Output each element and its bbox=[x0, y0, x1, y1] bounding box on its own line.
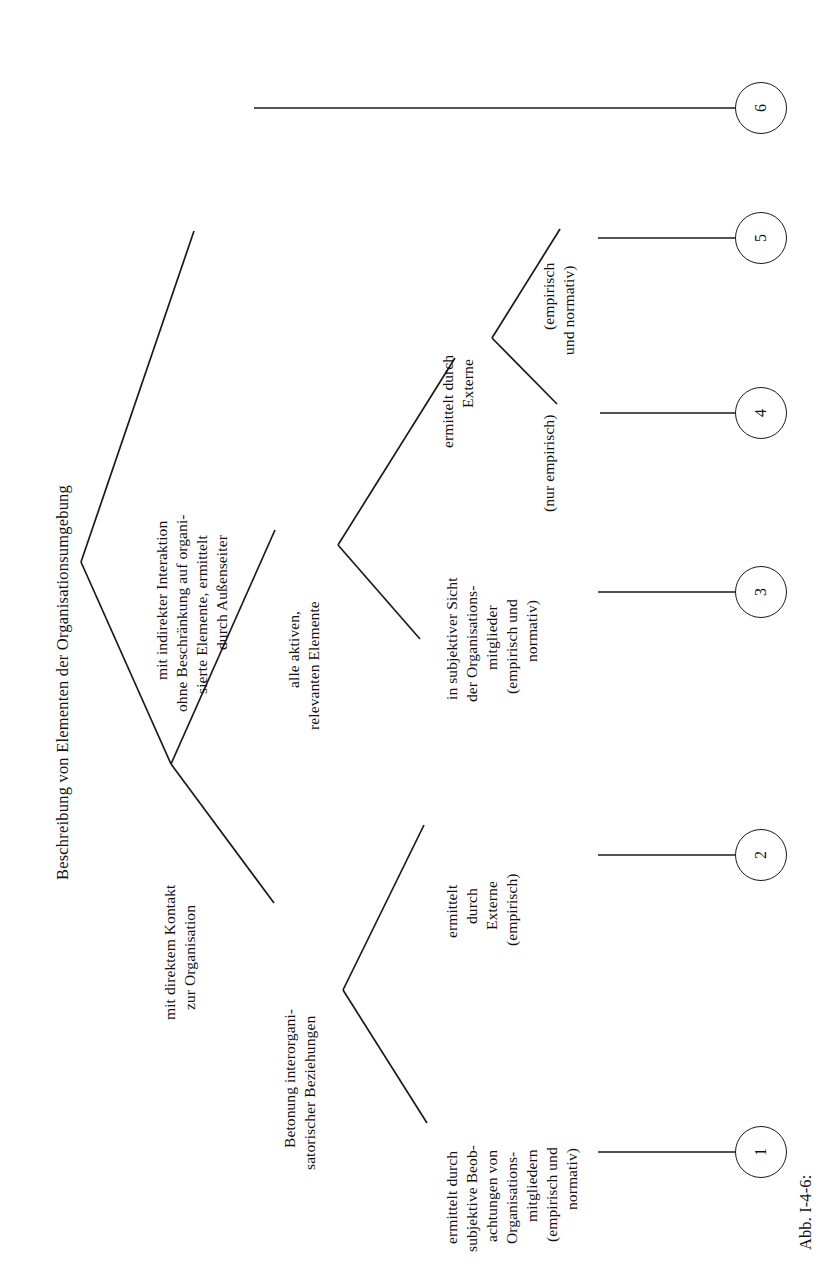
leaf3-line-4: (empirisch und bbox=[502, 599, 522, 694]
terminal-node-2[interactable]: 2 bbox=[735, 829, 787, 881]
leaf5-line-2: und normativ) bbox=[559, 265, 579, 355]
leaf1-line-4: Organisations- bbox=[502, 1152, 522, 1244]
branch-alleaktiven-line-2: relevanten Elemente bbox=[304, 601, 324, 730]
terminal-node-3-label: 3 bbox=[753, 588, 769, 596]
leaf3-line-5: normativ) bbox=[522, 600, 542, 662]
branch-indirekt-line-2: ohne Beschränkung auf organi- bbox=[172, 514, 192, 712]
terminal-node-5[interactable]: 5 bbox=[735, 212, 787, 264]
terminal-node-1[interactable]: 1 bbox=[735, 1126, 787, 1178]
leaf2-line-4: (empirisch) bbox=[502, 873, 522, 946]
page-title: Beschreibung von Elementen der Organisat… bbox=[52, 485, 73, 880]
leaf1-line-5: mitgliedern bbox=[522, 1149, 542, 1222]
terminal-node-2-label: 2 bbox=[753, 851, 769, 859]
terminal-node-5-label: 5 bbox=[753, 234, 769, 242]
terminal-node-6-label: 6 bbox=[753, 104, 769, 112]
tree-edges bbox=[0, 0, 839, 1266]
branch-direkt-line-2: zur Organisation bbox=[180, 905, 200, 1010]
leaf2-line-1: ermittelt bbox=[442, 885, 462, 938]
terminal-node-3[interactable]: 3 bbox=[735, 566, 787, 618]
branch-betonung-line-1: Betonung interorgani- bbox=[280, 1009, 300, 1148]
terminal-node-1-label: 1 bbox=[753, 1148, 769, 1156]
edge-alleaktiven-to-leaf3 bbox=[338, 545, 420, 639]
branch-alleaktiven-line-1: alle aktiven, bbox=[284, 611, 304, 688]
edge-root-to-indirekt bbox=[81, 231, 194, 562]
terminal-node-6[interactable]: 6 bbox=[735, 82, 787, 134]
branch-indirekt-line-4: durch Außenseiter bbox=[212, 535, 232, 650]
figure-page: Beschreibung von Elementen der Organisat… bbox=[0, 0, 839, 1266]
edge-betonung-to-leaf2 bbox=[343, 825, 424, 990]
leaf2-line-3: Externe bbox=[482, 881, 502, 930]
branch-externe-line-2: Externe bbox=[458, 359, 478, 408]
edge-direkt-to-betonung bbox=[171, 764, 274, 903]
leaf1-line-6: (empirisch und bbox=[542, 1147, 562, 1242]
leaf2-line-2: durch bbox=[462, 888, 482, 924]
leaf3-line-2: der Organisations- bbox=[462, 586, 482, 702]
leaf3-line-3: mitglieder bbox=[482, 605, 502, 670]
branch-betonung-line-2: satorischer Beziehungen bbox=[300, 1016, 320, 1170]
edge-betonung-to-leaf1 bbox=[343, 990, 427, 1123]
leaf1-line-3: achtungen von bbox=[482, 1150, 502, 1242]
terminal-node-4[interactable]: 4 bbox=[735, 387, 787, 439]
leaf1-line-1: ermittelt durch bbox=[442, 1151, 462, 1244]
terminal-node-4-label: 4 bbox=[753, 409, 769, 417]
figure-caption: Abb. I-4-6: bbox=[795, 1175, 816, 1250]
branch-direkt-line-1: mit direktem Kontakt bbox=[160, 885, 180, 1020]
leaf3-line-1: in subjektiver Sicht bbox=[442, 577, 462, 700]
branch-indirekt-line-3: sierte Elemente, ermittelt bbox=[192, 535, 212, 694]
leaf1-line-7: normativ) bbox=[562, 1148, 582, 1210]
branch-externe-line-1: ermittelt durch bbox=[438, 355, 458, 448]
leaf5-line-1: (empirisch bbox=[539, 263, 559, 330]
branch-indirekt-line-1: mit indirekter Interaktion bbox=[152, 521, 172, 680]
leaf4-line-1: (nur empirisch) bbox=[539, 415, 559, 512]
leaf1-line-2: subjektive Beob- bbox=[462, 1145, 482, 1252]
edge-externe-to-leaf4 bbox=[492, 338, 557, 404]
